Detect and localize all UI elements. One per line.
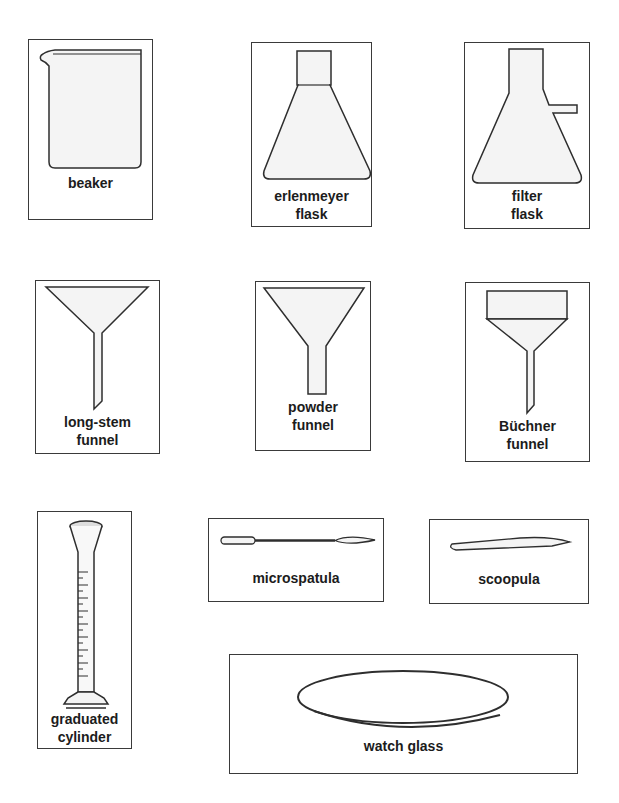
scoopula-icon bbox=[430, 520, 590, 605]
label-graduated-cylinder-line2: cylinder bbox=[38, 728, 131, 746]
label-graduated-cylinder-line1: graduated bbox=[38, 710, 131, 728]
card-watch-glass: watch glass bbox=[229, 654, 578, 774]
label-powder-funnel-line1: powder bbox=[256, 398, 370, 416]
label-scoopula: scoopula bbox=[430, 570, 588, 588]
card-erlenmeyer-flask: erlenmeyer flask bbox=[251, 42, 372, 227]
label-long-stem-funnel-line2: funnel bbox=[36, 431, 159, 449]
label-long-stem-funnel-line1: long-stem bbox=[36, 413, 159, 431]
card-long-stem-funnel: long-stem funnel bbox=[35, 280, 160, 454]
label-buchner-funnel-line2: funnel bbox=[466, 435, 589, 453]
label-beaker: beaker bbox=[29, 174, 152, 192]
card-filter-flask: filter flask bbox=[464, 42, 590, 229]
card-microspatula: microspatula bbox=[208, 518, 384, 602]
card-powder-funnel: powder funnel bbox=[255, 281, 371, 451]
label-watch-glass: watch glass bbox=[230, 737, 577, 755]
label-filter-flask-line1: filter bbox=[465, 187, 589, 205]
label-erlenmeyer-flask-line1: erlenmeyer bbox=[252, 187, 371, 205]
watch-glass-icon bbox=[230, 655, 579, 775]
card-beaker: beaker bbox=[28, 39, 153, 220]
microspatula-icon bbox=[209, 519, 385, 603]
card-scoopula: scoopula bbox=[429, 519, 589, 604]
label-microspatula: microspatula bbox=[209, 569, 383, 587]
label-buchner-funnel-line1: Büchner bbox=[466, 417, 589, 435]
label-erlenmeyer-flask-line2: flask bbox=[252, 205, 371, 223]
card-graduated-cylinder: graduated cylinder bbox=[37, 511, 132, 749]
card-buchner-funnel: Büchner funnel bbox=[465, 282, 590, 462]
label-powder-funnel-line2: funnel bbox=[256, 416, 370, 434]
label-filter-flask-line2: flask bbox=[465, 205, 589, 223]
beaker-icon bbox=[29, 40, 154, 221]
